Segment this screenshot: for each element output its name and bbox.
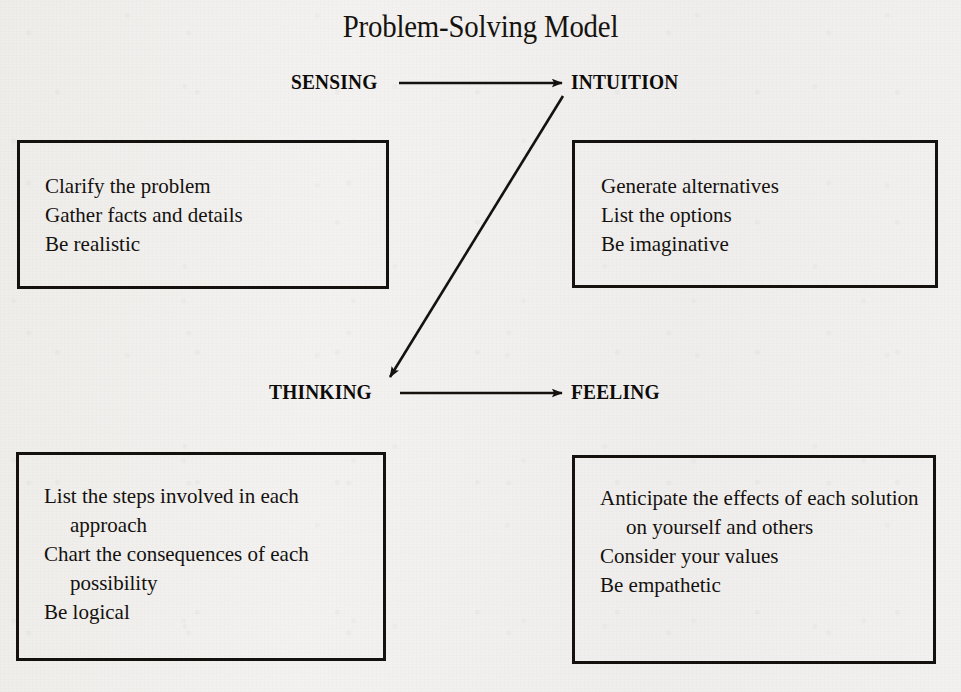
list-item: Be imaginative <box>601 230 926 259</box>
quadrant-text-feeling: Anticipate the effects of each solution … <box>600 484 925 600</box>
list-item: List the steps involved in each approach <box>44 482 374 540</box>
quadrant-text-intuition: Generate alternatives List the options B… <box>601 172 926 259</box>
quadrant-text-thinking: List the steps involved in each approach… <box>44 482 374 627</box>
pole-label-feeling: FEELING <box>571 381 660 403</box>
quadrant-text-sensing: Clarify the problem Gather facts and det… <box>45 172 375 259</box>
pole-label-intuition: INTUITION <box>571 71 678 93</box>
list-item: Clarify the problem <box>45 172 375 201</box>
arrow-intuition-to-thinking <box>390 96 563 377</box>
list-item: Generate alternatives <box>601 172 926 201</box>
diagram-page: Problem-Solving Model SENSING INTUITION … <box>0 0 961 692</box>
list-item: Gather facts and details <box>45 201 375 230</box>
list-item: Be logical <box>44 598 374 627</box>
list-item: Anticipate the effects of each solution … <box>600 484 925 542</box>
pole-label-thinking: THINKING <box>269 381 372 403</box>
page-title: Problem-Solving Model <box>34 8 928 46</box>
list-item: Chart the consequences of each possibili… <box>44 540 374 598</box>
pole-label-sensing: SENSING <box>291 71 378 93</box>
list-item: Be empathetic <box>600 571 925 600</box>
list-item: Be realistic <box>45 230 375 259</box>
list-item: Consider your values <box>600 542 925 571</box>
list-item: List the options <box>601 201 926 230</box>
